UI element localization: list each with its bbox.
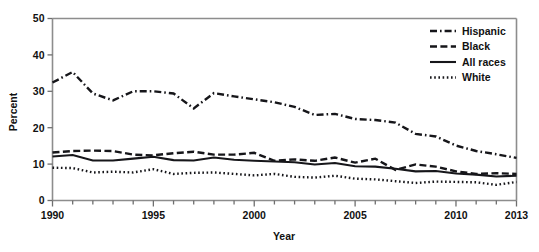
- chart-container: 01020304050 199019952000200520102013 His…: [0, 0, 539, 252]
- y-tick-label: 20: [33, 122, 45, 134]
- y-tick-label: 30: [33, 85, 45, 97]
- legend-label-all-races: All races: [462, 56, 506, 68]
- legend-label-hispanic: Hispanic: [462, 25, 506, 37]
- y-tick-label: 0: [39, 194, 45, 206]
- x-tick-label: 2005: [343, 209, 367, 221]
- x-tick-label: 1990: [41, 209, 65, 221]
- series-line-hispanic: [53, 72, 517, 158]
- y-axis-ticks: 01020304050: [33, 12, 53, 206]
- y-tick-label: 40: [33, 49, 45, 61]
- chart-legend: HispanicBlackAll racesWhite: [430, 25, 506, 84]
- line-chart: 01020304050 199019952000200520102013 His…: [0, 0, 539, 252]
- x-tick-label: 2000: [243, 209, 267, 221]
- y-tick-label: 10: [33, 158, 45, 170]
- series-line-all-races: [53, 155, 517, 176]
- x-tick-label: 2010: [444, 209, 468, 221]
- y-axis-title: Percent: [7, 92, 19, 131]
- data-series-group: [53, 72, 517, 185]
- x-axis-title: Year: [273, 230, 295, 242]
- legend-label-black: Black: [462, 40, 490, 52]
- x-tick-label: 2013: [505, 209, 529, 221]
- series-line-white: [53, 168, 517, 185]
- x-tick-label: 1995: [142, 209, 166, 221]
- legend-label-white: White: [462, 71, 491, 83]
- y-tick-label: 50: [33, 12, 45, 24]
- x-axis-ticks: 199019952000200520102013: [41, 201, 529, 221]
